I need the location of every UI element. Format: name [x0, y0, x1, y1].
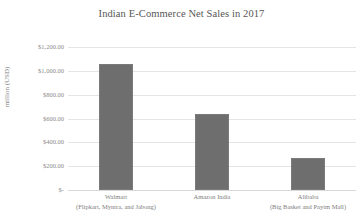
gridline [68, 47, 356, 48]
bar[interactable] [99, 64, 133, 190]
y-axis-tick-label: $1,200.00 [4, 43, 64, 50]
y-axis-tick-label: $400.00 [4, 138, 64, 145]
y-axis-tick-label: $600.00 [4, 115, 64, 122]
x-axis-tick-labels: Walmart(Flipkart, Myntra, and Jabong)Ama… [68, 192, 356, 221]
bar-chart: Indian E-Commerce Net Sales in 2017 mill… [0, 0, 363, 221]
bar[interactable] [195, 114, 229, 190]
category-sublabel: (Big Basket and Paytm Mall) [260, 202, 356, 212]
y-axis-tick-label: $800.00 [4, 91, 64, 98]
y-axis-tick-labels: $1,200.00$1,000.00$800.00$600.00$400.00$… [4, 47, 64, 190]
y-axis-tick-label: $- [4, 186, 64, 193]
chart-title: Indian E-Commerce Net Sales in 2017 [0, 8, 363, 19]
x-axis-tick-label: Amazon India [164, 192, 260, 202]
y-axis-tick-label: $200.00 [4, 162, 64, 169]
x-axis-tick-label: Walmart(Flipkart, Myntra, and Jabong) [68, 192, 164, 211]
bar[interactable] [291, 158, 325, 190]
category-sublabel: (Flipkart, Myntra, and Jabong) [68, 202, 164, 212]
category-name: Amazon India [164, 192, 260, 202]
category-name: Alibaba [260, 192, 356, 202]
category-name: Walmart [68, 192, 164, 202]
x-axis-tick-label: Alibaba(Big Basket and Paytm Mall) [260, 192, 356, 211]
y-axis-tick-label: $1,000.00 [4, 67, 64, 74]
gridline [68, 190, 356, 191]
plot-area [68, 47, 356, 190]
